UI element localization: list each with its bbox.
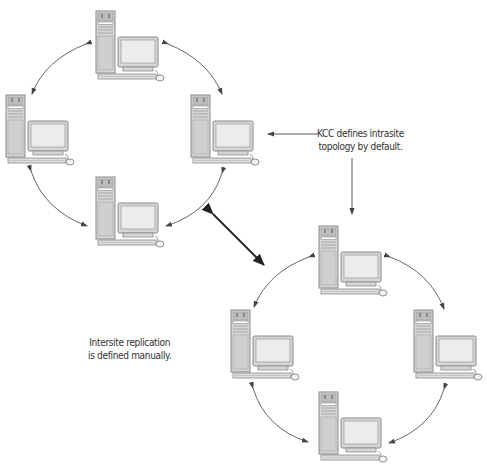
intersite-arrow: [213, 214, 264, 265]
computer-icon: [230, 309, 302, 383]
computer-icon: [318, 225, 390, 299]
intersite-annotation: Intersite replication is defined manuall…: [88, 336, 171, 362]
arc-s2-top-right: [390, 257, 444, 309]
diagram-canvas: KCC defines intrasite topology by defaul…: [0, 0, 487, 472]
kcc-annotation: KCC defines intrasite topology by defaul…: [317, 127, 404, 153]
intersite-annotation-line1: Intersite replication: [88, 336, 171, 349]
kcc-annotation-line2: topology by default.: [317, 140, 404, 153]
computer-icon: [95, 176, 167, 250]
computer-icon: [190, 94, 262, 168]
computer-icon: [318, 391, 390, 465]
computer-icon: [413, 309, 485, 383]
computer-icon: [5, 94, 77, 168]
arc-s1-right-bottom: [166, 173, 222, 226]
arc-s1-left-bottom: [31, 171, 87, 226]
arc-s1-top-left: [32, 44, 86, 94]
arc-s2-right-bottom: [389, 389, 444, 443]
intersite-annotation-line2: is defined manually.: [88, 349, 171, 362]
computer-icon: [95, 10, 167, 84]
kcc-annotation-line1: KCC defines intrasite: [317, 127, 404, 140]
connection-arrows: [0, 0, 487, 472]
arc-s1-top-right: [168, 44, 222, 94]
arc-s2-left-bottom: [253, 388, 308, 442]
